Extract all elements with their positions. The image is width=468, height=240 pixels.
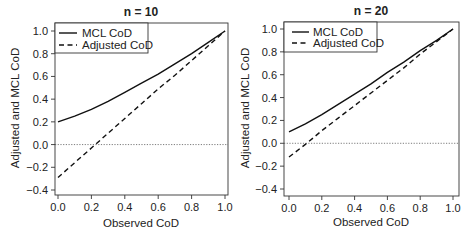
x-axis-label: Observed CoD — [333, 216, 409, 228]
y-tick-label: 0.6 — [33, 70, 48, 82]
legend: MCL CoD Adjusted CoD — [284, 22, 384, 52]
x-tick-label: 0.4 — [347, 202, 362, 214]
y-tick-label: 0.8 — [33, 48, 48, 60]
y-tick-label: 0.8 — [262, 46, 277, 58]
x-tick-label: 0.2 — [84, 201, 99, 213]
y-axis-label: Adjusted and MCL CoD — [239, 48, 251, 168]
x-tick-label: 0.0 — [50, 201, 65, 213]
y-tick-label: 0.4 — [33, 93, 48, 105]
y-tick-label: 0.2 — [262, 114, 277, 126]
x-tick-label: 0.6 — [380, 202, 395, 214]
y-tick-label: 1.0 — [33, 25, 48, 37]
panel-title: n = 20 — [354, 4, 389, 18]
x-tick-label: 0.8 — [413, 202, 428, 214]
x-tick-label: 0.4 — [117, 201, 132, 213]
y-tick-label: 0.2 — [33, 116, 48, 128]
y-tick-label: −0.2 — [26, 161, 48, 173]
panel-n20: n = 20 0.00.20.40.60.81.0−0.4−0.20.00.20… — [239, 4, 461, 228]
panel-title: n = 10 — [124, 5, 159, 19]
cod-comparison-figure: n = 10 0.00.20.40.60.81.0−0.4−0.20.00.20… — [0, 0, 468, 240]
y-tick-label: 0.0 — [262, 137, 277, 149]
x-tick-label: 1.0 — [217, 201, 232, 213]
y-axis-label: Adjusted and MCL CoD — [9, 48, 21, 168]
y-tick-label: −0.4 — [255, 183, 277, 195]
legend: MCL CoD Adjusted CoD — [55, 23, 153, 53]
y-tick-label: 0.6 — [262, 69, 277, 81]
panel-n10: n = 10 0.00.20.40.60.81.0−0.4−0.20.00.20… — [9, 5, 233, 229]
x-tick-label: 0.2 — [314, 202, 329, 214]
x-tick-label: 0.6 — [151, 201, 166, 213]
legend-label-adjusted: Adjusted CoD — [82, 39, 153, 51]
y-tick-label: 0.0 — [33, 139, 48, 151]
y-tick-label: 0.4 — [262, 92, 277, 104]
x-axis-label: Observed CoD — [103, 217, 179, 229]
x-tick-label: 0.0 — [281, 202, 296, 214]
legend-label-mcl: MCL CoD — [82, 27, 132, 39]
legend-label-adjusted: Adjusted CoD — [313, 37, 384, 49]
y-tick-label: 1.0 — [262, 23, 277, 35]
y-tick-label: −0.4 — [26, 184, 48, 196]
x-tick-label: 0.8 — [184, 201, 199, 213]
y-tick-label: −0.2 — [255, 160, 277, 172]
x-tick-label: 1.0 — [445, 202, 460, 214]
